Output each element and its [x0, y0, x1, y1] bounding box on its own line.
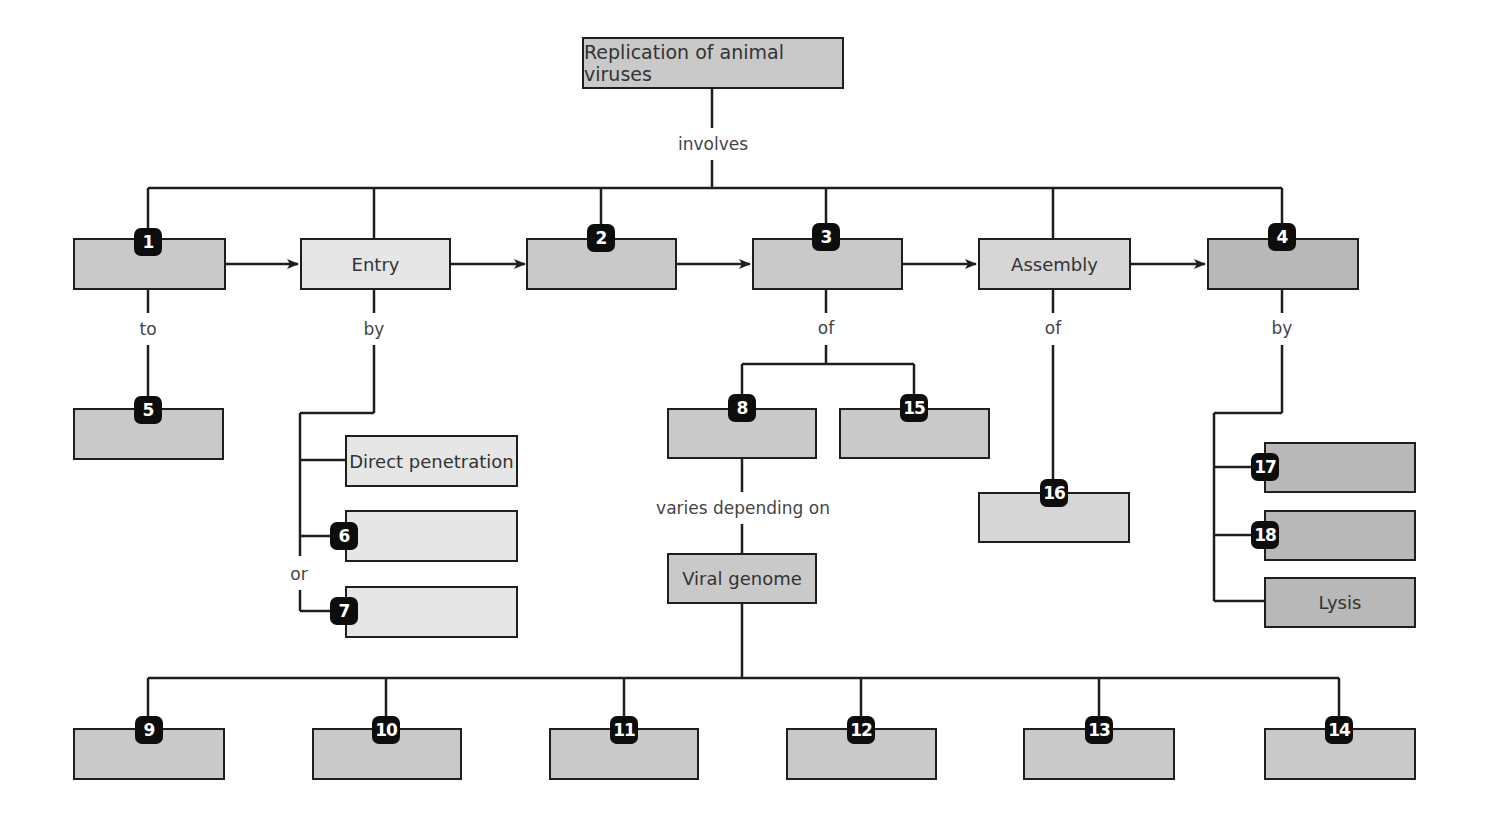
link-to: to — [135, 319, 160, 339]
badge-1: 1 — [134, 228, 162, 256]
badge-5: 5 — [134, 396, 162, 424]
direct-penetration-label: Direct penetration — [349, 451, 514, 472]
link-by-4: by — [1268, 318, 1297, 338]
stage-entry-label: Entry — [352, 254, 400, 275]
node-6-box[interactable] — [345, 510, 518, 562]
link-involves: involves — [674, 134, 752, 154]
link-of-3: of — [814, 318, 838, 338]
badge-10: 10 — [372, 716, 400, 744]
stage-entry-box: Entry — [300, 238, 451, 290]
direct-penetration-box: Direct penetration — [345, 435, 518, 487]
badge-6: 6 — [330, 522, 358, 550]
badge-17: 17 — [1251, 453, 1279, 481]
link-by-entry: by — [360, 319, 389, 339]
badge-11: 11 — [610, 716, 638, 744]
link-varies-depending-on: varies depending on — [652, 498, 834, 518]
link-of-assembly: of — [1041, 318, 1065, 338]
viral-genome-label: Viral genome — [682, 568, 802, 589]
badge-7: 7 — [330, 597, 358, 625]
badge-12: 12 — [847, 716, 875, 744]
badge-2: 2 — [587, 224, 615, 252]
badge-16: 16 — [1040, 479, 1068, 507]
badge-18: 18 — [1251, 521, 1279, 549]
lysis-box: Lysis — [1264, 577, 1416, 628]
lysis-label: Lysis — [1319, 592, 1362, 613]
badge-9: 9 — [135, 716, 163, 744]
node-17-box[interactable] — [1264, 442, 1416, 493]
title-label: Replication of animal viruses — [584, 41, 842, 85]
badge-8: 8 — [728, 394, 756, 422]
badge-15: 15 — [900, 394, 928, 422]
viral-genome-box: Viral genome — [667, 553, 817, 604]
badge-14: 14 — [1325, 716, 1353, 744]
stage-assembly-label: Assembly — [1011, 254, 1098, 275]
link-or: or — [286, 564, 311, 584]
badge-3: 3 — [812, 223, 840, 251]
badge-4: 4 — [1268, 223, 1296, 251]
badge-13: 13 — [1085, 716, 1113, 744]
stage-assembly-box: Assembly — [978, 238, 1131, 290]
title-box: Replication of animal viruses — [582, 37, 844, 89]
node-7-box[interactable] — [345, 586, 518, 638]
node-18-box[interactable] — [1264, 510, 1416, 561]
